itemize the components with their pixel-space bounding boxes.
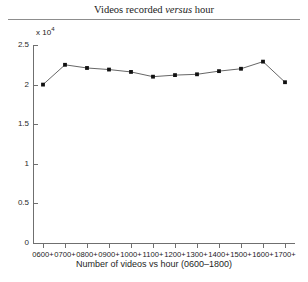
y-axis-exponent: x 104 (36, 26, 54, 37)
x-axis-tick-label: 1000+ (120, 250, 141, 259)
series-markers (41, 60, 287, 87)
data-series (33, 45, 295, 243)
title-divider (8, 19, 300, 20)
x-axis-tick-label: 0600+ (32, 250, 53, 259)
data-point (107, 68, 111, 72)
x-axis-tick-label: 1700+ (274, 250, 295, 259)
data-point (85, 66, 89, 70)
data-point (261, 60, 265, 64)
x-axis-title: Number of videos vs hour (0600–1800) (0, 259, 308, 269)
y-axis-tick-label: 0.5 (18, 199, 29, 207)
x-axis-tick-label: 0800+ (76, 250, 97, 259)
x-axis-tick (109, 244, 110, 248)
y-axis-tick (34, 243, 38, 244)
x-axis-tick-label: 0900+ (98, 250, 119, 259)
data-point (217, 69, 221, 73)
x-axis-tick-label: 1300+ (186, 250, 207, 259)
chart-title-tail: hour (192, 4, 214, 15)
x-axis-tick (241, 244, 242, 248)
x-axis-tick (263, 244, 264, 248)
y-axis-tick-label: 1 (25, 160, 29, 168)
x-axis-tick-label: 1400+ (208, 250, 229, 259)
x-axis-tick (87, 244, 88, 248)
data-point (63, 63, 67, 67)
x-axis-tick (153, 244, 154, 248)
x-axis-tick-label: 1100+ (143, 250, 164, 259)
y-axis-exponent-prefix: x 10 (36, 28, 51, 37)
data-point (239, 67, 243, 71)
title-block: Videos recorded versus hour (0, 0, 308, 17)
x-axis-tick-label: 0700+ (54, 250, 75, 259)
x-axis-tick (175, 244, 176, 248)
x-axis-tick (43, 244, 44, 248)
chart-title-italic: versus (165, 4, 192, 15)
y-axis-tick-label: 2 (25, 81, 29, 89)
x-axis-tick-label: 1500+ (230, 250, 251, 259)
x-axis-tick (219, 244, 220, 248)
y-axis-exponent-value: 4 (51, 26, 54, 32)
y-axis-tick-label: 1.5 (18, 120, 29, 128)
data-point (151, 75, 155, 79)
figure: Videos recorded versus hour x 104 00.511… (0, 0, 308, 282)
data-point (41, 83, 45, 87)
chart-title: Videos recorded versus hour (0, 0, 308, 17)
data-point (129, 70, 133, 74)
plot-area: 00.511.522.5 0600+0700+0800+0900+1000+11… (33, 45, 295, 243)
x-axis-tick (285, 244, 286, 248)
y-axis-tick-label: 2.5 (18, 41, 29, 49)
data-point (283, 80, 287, 84)
x-axis-line (33, 243, 295, 244)
data-point (195, 72, 199, 76)
x-axis-tick (65, 244, 66, 248)
chart-title-plain: Videos recorded (94, 4, 165, 15)
x-axis-tick (197, 244, 198, 248)
x-axis-tick (131, 244, 132, 248)
data-point (173, 73, 177, 77)
series-line (43, 62, 285, 85)
y-axis-tick-label: 0 (25, 239, 29, 247)
x-axis-tick-label: 1200+ (164, 250, 185, 259)
x-axis-tick-label: 1600+ (252, 250, 273, 259)
